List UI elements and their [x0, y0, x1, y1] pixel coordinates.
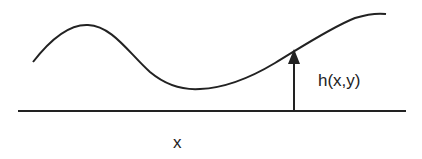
height-label: h(x,y)	[318, 72, 361, 89]
x-axis-label: x	[173, 134, 182, 151]
height-arrow-head-icon	[288, 49, 300, 64]
